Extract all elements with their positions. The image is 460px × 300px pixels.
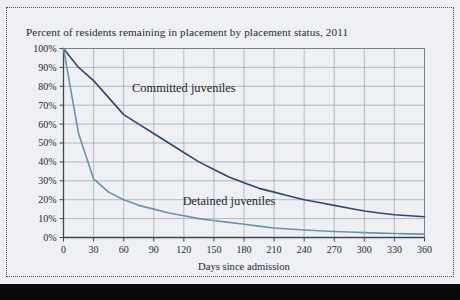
x-axis-tick-label: 270 bbox=[327, 244, 342, 255]
y-axis-tick-label: 90% bbox=[38, 62, 56, 73]
x-axis-tick-label: 90 bbox=[149, 244, 159, 255]
x-axis-tick-label: 30 bbox=[89, 244, 99, 255]
y-axis-tick-label: 70% bbox=[38, 100, 56, 111]
x-axis-tick-label: 120 bbox=[176, 244, 191, 255]
x-axis-tick-label: 330 bbox=[387, 244, 402, 255]
x-axis-tick-label: 240 bbox=[297, 244, 312, 255]
x-axis-tick-label: 150 bbox=[206, 244, 221, 255]
figure-container: Percent of residents remaining in placem… bbox=[0, 0, 460, 284]
x-axis-tick-label: 300 bbox=[357, 244, 372, 255]
plot-area-wrapper: 0%10%20%30%40%50%60%70%80%90%100% 030609… bbox=[0, 0, 460, 284]
x-axis-tick-label: 60 bbox=[119, 244, 129, 255]
x-axis-tick-label: 360 bbox=[417, 244, 432, 255]
series-annotation-label: Committed juveniles bbox=[132, 81, 236, 95]
y-axis-tick-label: 30% bbox=[38, 175, 56, 186]
x-axis-title-label: Days since admission bbox=[198, 261, 291, 272]
y-axis-tick-labels: 0%10%20%30%40%50%60%70%80%90%100% bbox=[33, 43, 63, 243]
x-axis-title: Days since admission bbox=[198, 261, 291, 272]
y-axis-tick-label: 100% bbox=[33, 43, 56, 54]
gridlines bbox=[64, 49, 425, 238]
page-bottom-strip bbox=[0, 284, 460, 300]
y-axis-tick-label: 0% bbox=[43, 232, 56, 243]
x-axis-tick-labels: 0306090120150180210240270300330360 bbox=[61, 238, 432, 255]
line-chart: 0%10%20%30%40%50%60%70%80%90%100% 030609… bbox=[0, 0, 460, 284]
y-axis-tick-label: 80% bbox=[38, 81, 56, 92]
x-axis-tick-label: 180 bbox=[237, 244, 252, 255]
y-axis-tick-label: 20% bbox=[38, 194, 56, 205]
y-axis-tick-label: 50% bbox=[38, 137, 56, 148]
series-annotation-label: Detained juveniles bbox=[183, 194, 276, 208]
y-axis-tick-label: 40% bbox=[38, 156, 56, 167]
x-axis-tick-label: 210 bbox=[267, 244, 282, 255]
y-axis-tick-label: 10% bbox=[38, 213, 56, 224]
x-axis-tick-label: 0 bbox=[61, 244, 66, 255]
y-axis-tick-label: 60% bbox=[38, 119, 56, 130]
